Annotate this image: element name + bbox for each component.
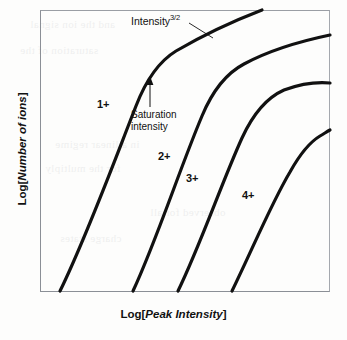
y-axis-title-variable: Number of ions [16, 96, 28, 180]
curve-4plus [232, 130, 330, 291]
saturation-intensity-annotation: Saturation intensity [131, 109, 177, 132]
curve-label-1plus: 1+ [97, 98, 110, 110]
power-law-annotation: Intensity3/2 [131, 13, 180, 27]
x-axis-title-variable: Peak Intensity [145, 308, 222, 320]
y-axis-title-suffix: ] [16, 92, 28, 96]
x-axis-title-prefix: Log[ [120, 308, 145, 320]
curve-label-2plus: 2+ [158, 150, 171, 162]
saturation-line-1: Saturation [131, 109, 177, 121]
x-axis-title-suffix: ] [223, 308, 227, 320]
curve-label-3plus: 3+ [186, 172, 199, 184]
power-law-exponent: 3/2 [170, 13, 180, 22]
curve-label-4plus: 4+ [242, 189, 255, 201]
curves-group [40, 10, 330, 292]
y-axis-title-prefix: Log[ [16, 181, 28, 206]
figure-root: and the ion signal saturation of the in … [0, 0, 347, 340]
saturation-line-2: intensity [131, 121, 177, 133]
y-axis-title: Log[Number of ions] [16, 49, 28, 249]
curve-3plus [178, 83, 330, 291]
power-law-base: Intensity [131, 15, 170, 27]
x-axis-title: Log[Peak Intensity] [0, 308, 347, 320]
